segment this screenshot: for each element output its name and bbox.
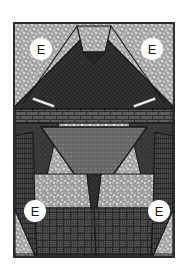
- label-text-top-right: E: [148, 42, 157, 55]
- piece-right-light-rectangle: [97, 174, 154, 208]
- label-circle-top-left: E: [30, 38, 52, 60]
- label-text-top-left: E: [37, 42, 46, 55]
- label-circle-bottom-right: E: [148, 200, 170, 222]
- label-circle-bottom-left: E: [24, 200, 46, 222]
- label-text-bottom-left: E: [31, 204, 40, 217]
- piece-top-center-notch: [77, 26, 111, 52]
- figure-root: E E E E: [0, 0, 188, 277]
- piece-brick-band: [15, 109, 173, 123]
- label-circle-top-right: E: [141, 38, 163, 60]
- quilt-block-frame: E E E E: [13, 22, 175, 258]
- label-text-bottom-right: E: [155, 204, 164, 217]
